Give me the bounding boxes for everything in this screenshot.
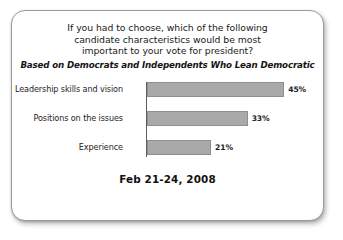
chart-subtitle: Based on Democrats and Independents Who … [12,60,323,71]
bar-row: Positions on the issues 33% [12,111,323,126]
category-label: Experience [0,140,123,155]
bar-row: Leadership skills and vision 45% [12,82,323,97]
question-line-3: important to your vote for president? [32,45,303,57]
category-label: Leadership skills and vision [0,82,123,97]
poll-result-card: If you had to choose, which of the follo… [11,10,324,221]
chart-question-title: If you had to choose, which of the follo… [12,11,323,57]
bar-value-label: 45% [288,82,306,97]
bar-row: Experience 21% [12,140,323,155]
question-line-2: candidate characteristics would be most [32,34,303,46]
bar-positions-on-the-issues [147,111,248,126]
survey-date-footer: Feb 21-24, 2008 [12,173,323,185]
horizontal-bar-chart: Leadership skills and vision 45% Positio… [12,82,323,159]
question-line-1: If you had to choose, which of the follo… [32,22,303,34]
bar-leadership-skills-and-vision [147,82,284,97]
bar-value-label: 33% [252,111,270,126]
bar-experience [147,140,211,155]
category-label: Positions on the issues [0,111,123,126]
bar-value-label: 21% [215,140,233,155]
